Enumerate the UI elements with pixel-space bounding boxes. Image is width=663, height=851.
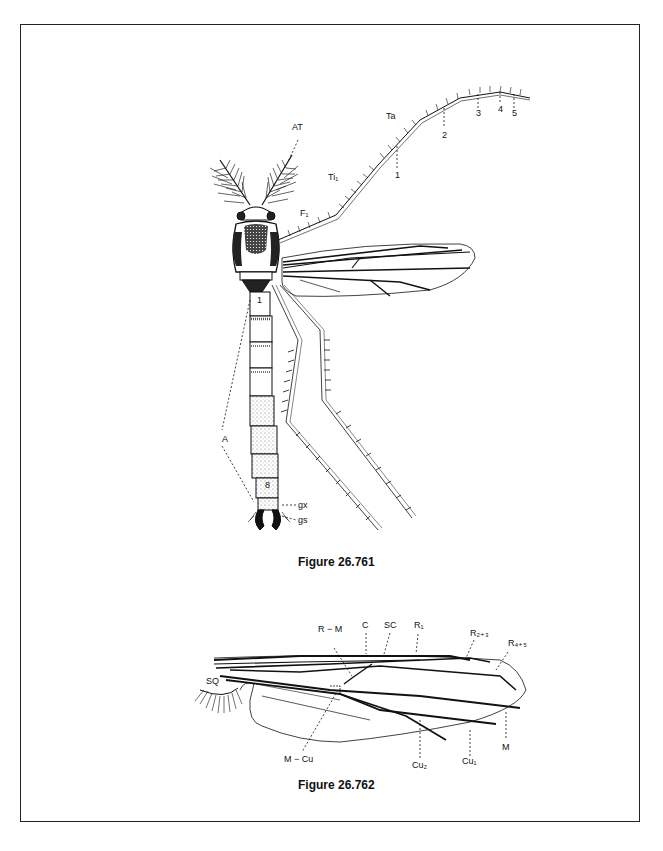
label-M: M	[502, 742, 510, 752]
antennae	[210, 155, 298, 205]
label-tarsus-4: 4	[498, 104, 503, 114]
label-R-M: R − M	[318, 624, 342, 634]
label-R2-3: R₂₊₃	[470, 628, 489, 638]
label-gs: gs	[298, 515, 308, 525]
label-Cu1: Cu₁	[462, 756, 477, 766]
label-tarsus-5: 5	[512, 108, 517, 118]
label-Cu2: Cu₂	[412, 760, 428, 770]
label-tarsus-3: 3	[476, 108, 481, 118]
wing-drawing	[195, 633, 526, 758]
figure-caption-2: Figure 26.762	[298, 778, 375, 792]
label-M-Cu: M − Cu	[284, 754, 313, 764]
figure-caption-1: Figure 26.761	[298, 555, 375, 569]
label-seg1: 1	[257, 295, 262, 305]
label-A: A	[222, 434, 228, 444]
label-seg8: 8	[265, 480, 270, 490]
label-Ta: Ta	[386, 111, 396, 121]
label-R4-5: R₄₊₅	[508, 638, 527, 648]
label-AT: AT	[292, 122, 303, 132]
front-leg	[278, 86, 530, 243]
label-T: T	[254, 256, 260, 266]
label-tarsus-2: 2	[442, 130, 447, 140]
wing-fig1	[282, 244, 475, 297]
insect-drawing	[210, 86, 530, 530]
label-Ti1: Ti₁	[328, 172, 338, 182]
label-tarsus-1: 1	[395, 170, 400, 180]
label-F1: F₁	[300, 208, 309, 218]
label-SQ: SQ	[206, 676, 219, 686]
label-SC: SC	[384, 620, 397, 630]
illustrations: AT Ta Ti₁ F₁ T 1 A 8 gx gs 1 2 3 4 5	[0, 0, 663, 851]
hind-legs	[272, 285, 416, 530]
label-R1: R₁	[414, 620, 424, 630]
label-gx: gx	[298, 500, 308, 510]
label-C: C	[362, 620, 369, 630]
